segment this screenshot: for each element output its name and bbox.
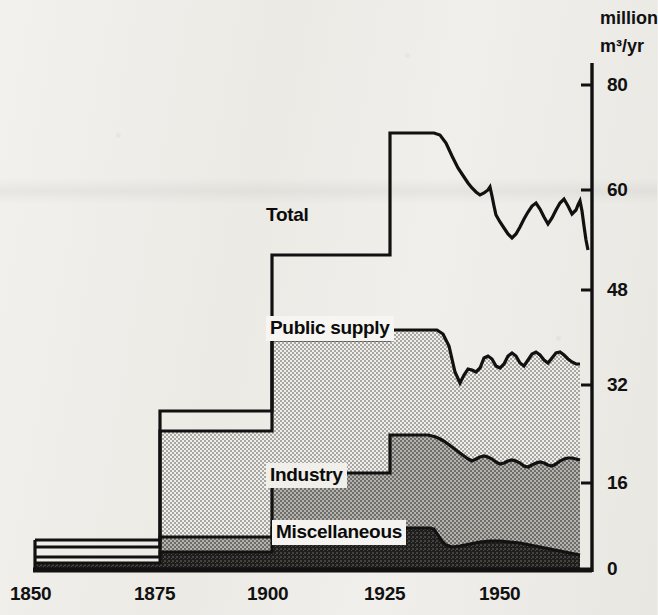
- x-tick-label-1850: 1850: [10, 583, 51, 605]
- y-tick-label-0: 0: [607, 558, 617, 580]
- y-tick-label-32: 32: [607, 374, 628, 396]
- y-tick-label-60: 60: [607, 179, 628, 201]
- x-tick-label-1875: 1875: [134, 583, 175, 605]
- series-label-miscellaneous: Miscellaneous: [272, 520, 406, 545]
- y-axis-unit-line1: million: [600, 8, 658, 29]
- y-tick-label-48: 48: [607, 279, 628, 301]
- y-axis-unit-line2: m³/yr: [600, 36, 644, 57]
- x-tick-label-1925: 1925: [364, 583, 405, 605]
- series-label-public-supply: Public supply: [266, 316, 394, 341]
- series-label-industry: Industry: [266, 463, 347, 488]
- x-tick-label-1900: 1900: [247, 583, 288, 605]
- series-label-total: Total: [262, 203, 312, 228]
- y-tick-label-16: 16: [607, 472, 628, 494]
- x-tick-label-1950: 1950: [479, 583, 520, 605]
- y-tick-label-80: 80: [607, 74, 628, 96]
